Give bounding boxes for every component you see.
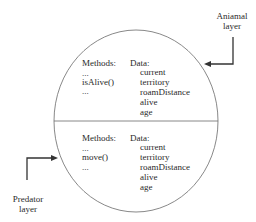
bottom-data-item: territory (140, 152, 170, 162)
bottom-data-item: alive (140, 172, 158, 182)
diagram-canvas (0, 0, 256, 222)
label-line: Predator (4, 194, 52, 204)
bottom-method: ... (82, 162, 89, 172)
top-data-item: age (140, 107, 153, 117)
animal-layer-arrow (210, 37, 233, 64)
top-method: ... (82, 86, 89, 96)
label-line: Aniamal (207, 11, 256, 21)
top-data-item: territory (140, 77, 170, 87)
top-methods-header: Methods: (82, 58, 116, 68)
bottom-method: move() (82, 152, 108, 162)
arrowhead-icon (204, 61, 211, 67)
bottom-data-item: current (140, 142, 165, 152)
bottom-data-item: age (140, 182, 153, 192)
predator-layer-arrow (27, 158, 53, 180)
top-data-item: current (140, 67, 165, 77)
label-line: layer (207, 21, 256, 31)
arrowhead-icon (51, 155, 58, 161)
animal-layer-label: Aniamal layer (207, 11, 256, 31)
bottom-data-item: roamDistance (140, 162, 190, 172)
bottom-methods-header: Methods: (82, 133, 116, 143)
top-data-item: roamDistance (140, 87, 190, 97)
label-line: layer (4, 204, 52, 214)
predator-layer-label: Predator layer (4, 194, 52, 214)
top-data-item: alive (140, 97, 158, 107)
